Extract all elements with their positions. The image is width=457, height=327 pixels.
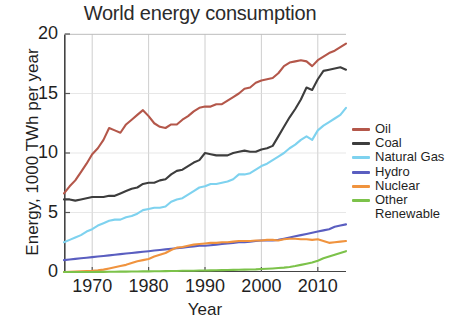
legend-label: Hydro [375,165,410,179]
chart-title: World energy consumption [0,2,400,25]
legend-label: Other [375,193,408,207]
plot-svg [64,34,346,272]
y-tick-label: 0 [48,261,58,282]
x-tick-label: 1970 [72,276,112,297]
legend-item-nuclear[interactable]: Nuclear [352,179,457,193]
legend-label: Oil [375,122,391,136]
legend-swatch-icon [352,128,370,131]
legend-swatch-icon [352,185,370,188]
legend-label: Coal [375,136,402,150]
chart-figure: World energy consumption Energy, 1000 TW… [0,0,457,327]
legend-swatch-icon [352,142,370,145]
x-tick-label: 2010 [298,276,338,297]
x-axis-label: Year [60,300,350,320]
y-tick-label: 5 [48,202,58,223]
legend-label-continuation: Renewable [375,207,457,221]
y-tick-label: 20 [38,23,58,44]
x-tick-label: 1980 [129,276,169,297]
x-tick-label: 2000 [241,276,281,297]
chart-legend: OilCoalNatural GasHydroNuclearOtherRenew… [352,122,457,221]
y-tick-label: 10 [38,142,58,163]
legend-swatch-icon [352,199,370,202]
x-tick-label: 1990 [185,276,225,297]
legend-item-natural-gas[interactable]: Natural Gas [352,150,457,164]
legend-swatch-icon [352,171,370,174]
y-tick-label: 15 [38,83,58,104]
legend-item-oil[interactable]: Oil [352,122,457,136]
plot-area: 05101520 19701980199020002010 [64,34,346,272]
legend-item-hydro[interactable]: Hydro [352,165,457,179]
legend-label: Natural Gas [375,150,444,164]
legend-item-coal[interactable]: Coal [352,136,457,150]
legend-item-other[interactable]: Other [352,193,457,207]
legend-swatch-icon [352,156,370,159]
legend-label: Nuclear [375,179,420,193]
